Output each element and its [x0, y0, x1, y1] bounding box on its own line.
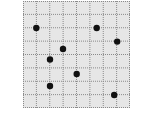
dot [74, 71, 80, 77]
dot [47, 83, 53, 89]
dot [111, 92, 117, 98]
dot [47, 56, 53, 62]
dot [114, 38, 120, 44]
dot [33, 25, 39, 31]
dot-grid [23, 1, 130, 108]
grid-canvas [23, 1, 130, 108]
dot [60, 46, 66, 52]
dot [94, 25, 100, 31]
